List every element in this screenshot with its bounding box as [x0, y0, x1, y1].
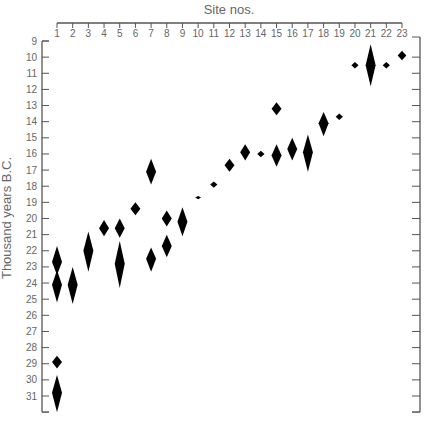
x-tick-label: 6 — [133, 28, 139, 39]
diamond-marker — [319, 112, 329, 136]
diamond-marker — [130, 202, 140, 215]
diamond-marker — [210, 181, 217, 187]
y-tick-label: 30 — [26, 374, 38, 385]
y-axis-left: 9101112131415161718192021222324252627282… — [26, 36, 49, 413]
x-axis: 1234567891011121314151617181920212223 — [54, 23, 408, 39]
x-tick-label: 18 — [318, 28, 330, 39]
diamond-marker — [99, 220, 109, 236]
y-tick-label: 24 — [26, 278, 38, 289]
diamond-marker — [287, 138, 297, 161]
y-axis-right — [412, 37, 420, 412]
x-tick-label: 21 — [365, 28, 377, 39]
x-tick-label: 15 — [271, 28, 283, 39]
y-tick-label: 23 — [26, 261, 38, 272]
y-tick-label: 25 — [26, 294, 38, 305]
y-tick-label: 15 — [26, 132, 38, 143]
diamond-marker — [68, 267, 78, 304]
diamond-marker — [351, 62, 358, 68]
diamond-marker — [146, 159, 156, 185]
x-tick-label: 11 — [209, 28, 220, 39]
x-tick-label: 16 — [287, 28, 299, 39]
x-tick-label: 19 — [334, 28, 346, 39]
x-tick-label: 14 — [255, 28, 267, 39]
y-tick-label: 13 — [26, 100, 38, 111]
chart: Site nos. 123456789101112131415161718192… — [0, 0, 432, 429]
diamond-marker — [398, 51, 407, 61]
y-tick-label: 27 — [26, 326, 38, 337]
x-tick-label: 4 — [101, 28, 107, 39]
x-axis-title: Site nos. — [204, 2, 255, 17]
x-tick-label: 23 — [396, 28, 408, 39]
y-tick-label: 16 — [26, 148, 38, 159]
y-tick-label: 12 — [26, 84, 38, 95]
diamond-marker — [146, 248, 156, 272]
diamond-marker — [257, 151, 264, 157]
diamond-marker — [366, 44, 376, 86]
data-markers — [52, 44, 406, 412]
y-tick-label: 22 — [26, 245, 38, 256]
y-tick-label: 20 — [26, 213, 38, 224]
x-tick-label: 5 — [117, 28, 123, 39]
x-tick-label: 13 — [240, 28, 252, 39]
diamond-marker — [115, 219, 125, 238]
x-tick-label: 7 — [148, 28, 154, 39]
diamond-marker — [83, 231, 93, 271]
diamond-marker — [52, 270, 62, 302]
y-tick-label: 10 — [26, 52, 38, 63]
y-tick-label: 14 — [26, 116, 38, 127]
y-tick-label: 28 — [26, 342, 38, 353]
diamond-marker — [177, 207, 187, 236]
diamond-marker — [303, 135, 313, 172]
y-tick-label: 26 — [26, 310, 38, 321]
x-tick-label: 2 — [70, 28, 76, 39]
x-tick-label: 20 — [349, 28, 361, 39]
y-tick-label: 11 — [27, 68, 38, 79]
diamond-marker — [195, 196, 201, 199]
y-tick-label: 17 — [26, 165, 38, 176]
x-tick-label: 9 — [180, 28, 186, 39]
y-tick-label: 29 — [26, 358, 38, 369]
diamond-marker — [240, 144, 250, 160]
diamond-marker — [225, 159, 235, 172]
x-tick-label: 10 — [193, 28, 205, 39]
y-tick-label: 21 — [26, 229, 38, 240]
y-tick-label: 9 — [31, 36, 37, 47]
diamond-marker — [162, 210, 172, 226]
x-tick-label: 12 — [224, 28, 236, 39]
diamond-marker — [162, 235, 172, 258]
x-tick-label: 17 — [302, 28, 314, 39]
y-tick-label: 19 — [26, 197, 38, 208]
x-tick-label: 8 — [164, 28, 170, 39]
y-axis-title: Thousand years B.C. — [0, 157, 14, 279]
diamond-marker — [272, 102, 282, 115]
x-tick-label: 22 — [381, 28, 393, 39]
diamond-marker — [383, 62, 390, 68]
diamond-marker — [115, 241, 125, 288]
diamond-marker — [52, 356, 62, 369]
diamond-marker — [52, 375, 62, 412]
x-tick-label: 3 — [86, 28, 92, 39]
x-tick-label: 1 — [54, 28, 60, 39]
diamond-marker — [336, 114, 343, 120]
y-tick-label: 31 — [26, 391, 38, 402]
diamond-marker — [272, 144, 282, 167]
y-tick-label: 18 — [26, 181, 38, 192]
